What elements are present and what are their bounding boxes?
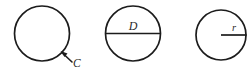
label-radius: r bbox=[232, 22, 237, 33]
diagram-radius: r bbox=[196, 10, 247, 60]
circle-outline-circumference bbox=[15, 6, 70, 61]
label-diameter: D bbox=[128, 19, 138, 33]
label-circumference: C bbox=[73, 57, 81, 69]
circle-measurements-figure: C D r bbox=[0, 0, 247, 72]
diagram-circumference: C bbox=[15, 6, 82, 69]
figure-canvas: C D r bbox=[0, 0, 247, 72]
diagram-diameter: D bbox=[106, 6, 161, 61]
